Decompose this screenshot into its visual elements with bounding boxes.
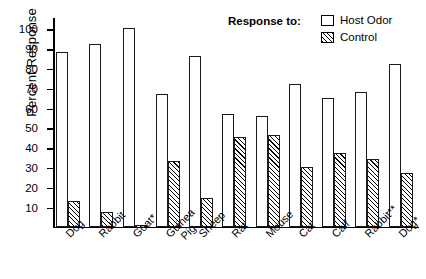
bar-host-odor — [89, 44, 101, 226]
bar-host-odor — [289, 84, 301, 227]
legend-label-control: Control — [340, 31, 377, 43]
bar-group — [123, 28, 147, 226]
bar-host-odor — [222, 114, 234, 227]
legend-entry-control: Control — [321, 31, 377, 43]
bar-host-odor — [56, 52, 68, 226]
bar-control — [234, 137, 246, 226]
y-tick-label-10: 10 — [25, 202, 38, 214]
y-tick-label-70: 70 — [25, 83, 38, 95]
y-tick-label-20: 20 — [25, 182, 38, 194]
bar-group — [89, 44, 113, 226]
bar-host-odor — [189, 56, 201, 226]
y-tick-label-80: 80 — [25, 63, 38, 75]
bar-group — [156, 94, 180, 227]
bar-series-container — [53, 19, 419, 227]
bar-host-odor — [156, 94, 168, 227]
y-tick-label-50: 50 — [25, 122, 38, 134]
bar-group — [256, 116, 280, 227]
bar-host-odor — [355, 92, 367, 227]
bar-host-odor — [123, 28, 135, 226]
bar-control — [301, 167, 313, 226]
legend-label-host-odor: Host Odor — [340, 14, 392, 26]
bar-group — [289, 84, 313, 227]
bar-group — [355, 92, 379, 227]
legend-title: Response to: — [228, 15, 301, 27]
chart-figure: Percent Response 102030405060708090100 D… — [0, 0, 426, 279]
bar-group — [189, 56, 213, 226]
bar-group — [56, 52, 80, 226]
y-tick-label-90: 90 — [25, 43, 38, 55]
bar-group — [389, 64, 413, 226]
y-tick-label-40: 40 — [25, 142, 38, 154]
bar-control — [334, 153, 346, 226]
bar-host-odor — [322, 98, 334, 227]
legend-entry-host-odor: Host Odor — [321, 14, 392, 26]
y-tick-label-30: 30 — [25, 162, 38, 174]
plot-area: 102030405060708090100 — [53, 18, 419, 228]
bar-group — [322, 98, 346, 227]
y-tick-label-60: 60 — [25, 103, 38, 115]
x-axis-category-labels: DogRabbitGoat*GuineaPigSheepRatMouseCatC… — [53, 232, 419, 279]
bar-control — [268, 135, 280, 226]
legend-swatch-open-box — [321, 15, 334, 26]
legend-swatch-hatched-box — [321, 32, 334, 43]
bar-group — [222, 114, 246, 227]
y-tick-label-100: 100 — [19, 23, 38, 35]
bar-host-odor — [256, 116, 268, 227]
